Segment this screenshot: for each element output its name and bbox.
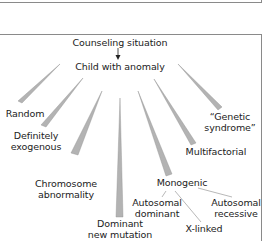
wedge-dominant-new xyxy=(116,98,123,217)
branch-random-text: Random xyxy=(6,108,45,119)
monogenic-x-linked-label: X-linked xyxy=(176,223,232,234)
wedge-multifactorial xyxy=(154,79,196,145)
root-label: Counseling situation xyxy=(72,37,168,48)
branch-genetic-syndrome-label: “Genetic syndrome” xyxy=(200,111,260,133)
branch-dominant-new-line1: Dominant xyxy=(84,218,156,229)
line-autosomal-recessive xyxy=(198,188,232,197)
monogenic-autosomal-recessive-label: Autosomal recessive xyxy=(206,197,266,219)
ar-line1: Autosomal xyxy=(206,197,266,208)
branch-chromosome-line1: Chromosome xyxy=(30,178,102,189)
branch-dominant-new-line2: new mutation xyxy=(84,229,156,240)
branch-monogenic-text: Monogenic xyxy=(157,177,208,188)
ar-line2: recessive xyxy=(206,208,266,219)
branch-chromosome-label: Chromosome abnormality xyxy=(30,178,102,200)
branch-multifactorial-text: Multifactorial xyxy=(186,146,247,157)
xl-text: X-linked xyxy=(185,223,222,234)
branch-exogenous-label: Definitely exogenous xyxy=(6,130,66,152)
branch-dominant-new-label: Dominant new mutation xyxy=(84,218,156,240)
wedge-monogenic xyxy=(138,91,172,176)
branch-genetic-syndrome-line2: syndrome” xyxy=(200,122,260,133)
wedge-exogenous xyxy=(41,78,83,127)
ad-line2: dominant xyxy=(126,208,188,219)
center-label: Child with anomaly xyxy=(72,61,168,72)
branch-multifactorial-label: Multifactorial xyxy=(176,146,256,157)
branch-chromosome-line2: abnormality xyxy=(30,189,102,200)
ad-line1: Autosomal xyxy=(126,197,188,208)
branch-genetic-syndrome-line1: “Genetic xyxy=(200,111,260,122)
arrow-head-icon xyxy=(116,55,121,60)
branch-exogenous-line1: Definitely xyxy=(6,130,66,141)
branch-random-label: Random xyxy=(0,108,50,119)
wedge-genetic-syndrome xyxy=(178,64,222,110)
monogenic-autosomal-dominant-label: Autosomal dominant xyxy=(126,197,188,219)
wedge-random xyxy=(18,64,60,103)
branch-monogenic-label: Monogenic xyxy=(150,177,214,188)
branch-exogenous-line2: exogenous xyxy=(6,141,66,152)
wedge-chromosome xyxy=(71,91,102,155)
